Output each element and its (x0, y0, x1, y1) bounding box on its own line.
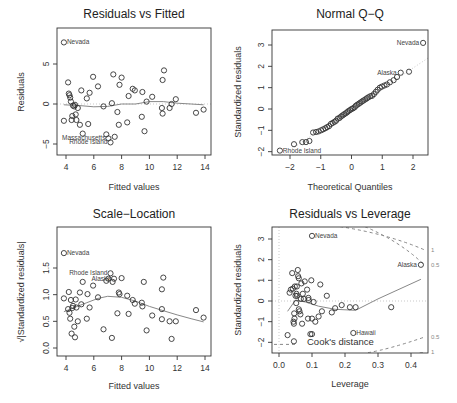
x-tick-label: 0.1 (306, 360, 318, 370)
data-point (125, 120, 130, 125)
y-tick-label: −5 (41, 139, 51, 149)
data-point (311, 299, 316, 304)
diagnostic-plots: Residuals vs Fitted Fitted values Residu… (0, 0, 457, 403)
point-label: Rhode Island (69, 138, 108, 145)
data-point (290, 271, 295, 276)
x-tick-label: 8 (119, 162, 124, 172)
point-label: Alaska (91, 275, 111, 282)
y-tick-label: 0.5 (41, 315, 51, 327)
data-point (398, 70, 403, 75)
y-tick-label: 2 (256, 64, 266, 69)
y-tick-label: −2 (256, 147, 266, 157)
y-tick-label: 1.0 (41, 288, 51, 300)
plot-area: NevadaAlaskaRhode Island−2−1012−2−10123 (256, 30, 428, 172)
data-point (160, 77, 165, 82)
data-point (292, 316, 297, 321)
panel-title: Residuals vs Fitted (83, 7, 184, 21)
panel-residuals-vs-leverage: Residuals vs Leverage Leverage Standardi… (233, 207, 440, 389)
x-tick-label: 14 (200, 162, 210, 172)
y-tick-label: 1 (256, 85, 266, 90)
data-point (77, 122, 82, 127)
panel-title: Normal Q−Q (316, 7, 384, 21)
data-point (319, 309, 324, 314)
data-point (167, 319, 172, 324)
data-point (201, 315, 206, 320)
data-point (159, 287, 164, 292)
data-point (85, 292, 90, 297)
x-tick-label: −1 (316, 162, 326, 172)
data-point (292, 311, 297, 316)
data-point (305, 287, 310, 292)
data-point (79, 88, 84, 93)
data-point (84, 316, 89, 321)
y-tick-label: 3 (256, 42, 266, 47)
data-point (159, 317, 164, 322)
data-point (72, 324, 77, 329)
data-point (141, 279, 146, 284)
data-point (84, 96, 89, 101)
data-point (86, 121, 91, 126)
data-point (144, 328, 149, 333)
data-point (66, 289, 71, 294)
data-point (77, 290, 82, 295)
data-point (159, 307, 164, 312)
contour-label: 0.5 (431, 334, 440, 340)
data-point (421, 40, 426, 45)
data-point (80, 279, 85, 284)
plot-area: 10.50.51NevadaAlaskaHawaii0.00.10.20.30.… (256, 227, 440, 370)
data-point (173, 319, 178, 324)
data-point (285, 333, 290, 338)
point-label: Hawaii (356, 329, 376, 336)
x-axis-label: Leverage (331, 379, 369, 389)
x-tick-label: 14 (200, 363, 210, 373)
y-tick-label: 1.5 (41, 262, 51, 274)
data-point (91, 74, 96, 79)
data-point (300, 321, 305, 326)
data-point (277, 148, 282, 153)
data-point (95, 295, 100, 300)
point-label: Nevada (67, 249, 90, 256)
x-tick-label: 12 (172, 162, 182, 172)
data-point (324, 293, 329, 298)
y-axis-label: Standardized residuals (233, 244, 243, 336)
plot-frame (57, 227, 211, 356)
data-point (161, 275, 166, 280)
y-tick-label: 1 (256, 278, 266, 283)
data-point (101, 327, 106, 332)
data-point (142, 129, 147, 134)
data-point (75, 319, 80, 324)
data-point (193, 110, 198, 115)
data-point (150, 94, 155, 99)
data-point (309, 278, 314, 283)
plot-area: NevadaRhode IslandAlaska4681012140.00.51… (41, 227, 211, 373)
data-point (112, 134, 117, 139)
x-axis-label: Fitted values (108, 182, 160, 192)
y-tick-label: 0.0 (41, 342, 51, 354)
data-point (295, 267, 300, 272)
data-point (309, 233, 314, 238)
data-point (117, 82, 122, 87)
data-point (115, 311, 120, 316)
data-point (150, 313, 155, 318)
data-point (125, 293, 130, 298)
y-axis-label: Standardized residuals (233, 46, 243, 138)
data-point (193, 308, 198, 313)
data-point (116, 122, 121, 127)
data-point (109, 335, 114, 340)
x-tick-label: 6 (91, 162, 96, 172)
x-tick-label: 1 (380, 162, 385, 172)
x-tick-label: 4 (64, 162, 69, 172)
y-tick-label: 0 (256, 298, 266, 303)
x-axis-label: Fitted values (108, 381, 160, 391)
y-axis-label: Residuals (16, 72, 26, 112)
data-point (201, 107, 206, 112)
data-point (347, 305, 352, 310)
data-point (291, 339, 296, 344)
point-label: Nevada (397, 39, 420, 46)
data-point (298, 312, 303, 317)
x-tick-label: 10 (145, 162, 155, 172)
data-point (61, 251, 66, 256)
data-point (91, 283, 96, 288)
cooks-distance-legend: Cook's distance (307, 336, 374, 347)
data-point (61, 40, 66, 45)
